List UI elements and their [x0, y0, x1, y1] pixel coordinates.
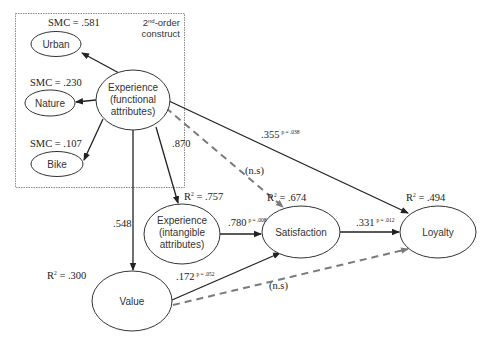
coef-satisfaction-to-loyalty: .331p = .012 — [356, 217, 395, 228]
node-urban: Urban — [31, 32, 81, 57]
svg-text:Urban: Urban — [42, 39, 69, 50]
node-loyalty: Loyalty — [400, 206, 476, 258]
r2-value: R2 = .300 — [47, 270, 86, 281]
coef-func-to-value: .548 — [113, 218, 131, 229]
r2-loyalty: R2 = .494 — [406, 192, 446, 203]
svg-text:attributes): attributes) — [160, 239, 204, 250]
node-experience-intangible: Experience (intangible attributes) — [144, 204, 220, 264]
path-func-to-bike — [84, 119, 103, 160]
second-order-construct-label-line2: construct — [141, 28, 180, 39]
svg-text:Bike: Bike — [47, 159, 67, 170]
second-order-construct-label: 2nd-order — [143, 17, 180, 28]
coef-intangible-to-satisfaction: .780p = .008 — [228, 217, 267, 228]
coef-value-to-loyalty: (n.s) — [269, 280, 288, 292]
svg-text:Nature: Nature — [35, 98, 65, 109]
coef-func-to-satisfaction: (n.s) — [245, 165, 264, 177]
svg-text:Loyalty: Loyalty — [422, 227, 454, 238]
node-value: Value — [92, 271, 172, 331]
svg-text:Experience: Experience — [157, 215, 207, 226]
svg-text:Value: Value — [120, 296, 145, 307]
smc-bike: SMC = .107 — [30, 138, 82, 149]
path-func-to-urban — [82, 53, 119, 73]
r2-experience-intangible: R2 = .757 — [184, 191, 223, 202]
node-satisfaction: Satisfaction — [262, 206, 340, 258]
smc-urban: SMC = .581 — [48, 17, 100, 28]
node-experience-functional: Experience (functional attributes) — [96, 70, 170, 130]
coef-func-to-loyalty: .355p = .038 — [261, 129, 300, 140]
coef-value-to-satisfaction: .172p = .052 — [176, 271, 215, 282]
node-bike: Bike — [31, 152, 83, 177]
svg-text:(intangible: (intangible — [159, 227, 206, 238]
r2-satisfaction: R2 = .674 — [267, 192, 307, 203]
smc-nature: SMC = .230 — [30, 77, 82, 88]
node-nature: Nature — [25, 90, 75, 116]
svg-text:attributes): attributes) — [111, 106, 155, 117]
sem-diagram: 2nd-order construct Urban SMC = .581 Nat… — [0, 0, 489, 342]
svg-text:Satisfaction: Satisfaction — [275, 227, 327, 238]
svg-text:(functional: (functional — [110, 94, 156, 105]
coef-func-to-intangible: .870 — [172, 138, 190, 149]
svg-text:Experience: Experience — [108, 82, 158, 93]
path-func-to-nature — [76, 100, 96, 102]
